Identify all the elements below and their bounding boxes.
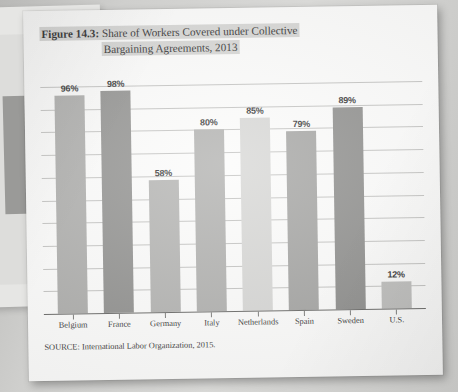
bar-group: 12% bbox=[370, 65, 420, 309]
bar-value-label: 85% bbox=[246, 106, 264, 116]
bar-value-label: 12% bbox=[387, 269, 405, 279]
background-chart-fragment bbox=[3, 96, 28, 215]
bar-group: 98% bbox=[92, 69, 142, 313]
figure-number-label: Figure 14.3: bbox=[41, 27, 99, 40]
tick-mark bbox=[73, 315, 74, 320]
tick-slot bbox=[50, 314, 96, 320]
bar-chart: 96%98%58%80%85%79%89%12% BelgiumFranceGe… bbox=[40, 65, 426, 314]
tick-slot bbox=[327, 310, 373, 316]
bar-group: 89% bbox=[324, 66, 374, 310]
x-axis-label: Sweden bbox=[327, 316, 373, 326]
bar-value-label: 79% bbox=[292, 118, 310, 128]
tick-slot bbox=[96, 313, 142, 319]
tick-slot bbox=[374, 309, 420, 315]
bar bbox=[55, 95, 88, 313]
tick-slot bbox=[189, 312, 235, 318]
x-axis-label: Netherlands bbox=[235, 317, 281, 327]
tick-mark bbox=[119, 314, 120, 319]
tick-slot bbox=[142, 313, 188, 319]
tick-mark bbox=[350, 310, 351, 315]
bar bbox=[101, 90, 134, 313]
x-axis-label: U.S. bbox=[374, 315, 420, 325]
bar-value-label: 96% bbox=[61, 84, 79, 94]
bar-series: 96%98%58%80%85%79%89%12% bbox=[40, 65, 426, 314]
tick-slot bbox=[281, 311, 327, 317]
bar-value-label: 80% bbox=[200, 118, 218, 128]
source-note: SOURCE: International Labor Organization… bbox=[44, 340, 215, 352]
page-content: Figure 14.3: Share of Workers Covered un… bbox=[23, 5, 443, 381]
tick-mark bbox=[165, 313, 166, 318]
bar-group: 96% bbox=[46, 70, 96, 314]
bar-group: 85% bbox=[231, 67, 281, 311]
bar bbox=[194, 130, 227, 312]
tick-mark bbox=[257, 312, 258, 317]
x-axis-label: Italy bbox=[189, 318, 235, 328]
x-axis-label: France bbox=[96, 319, 142, 329]
figure-title: Figure 14.3: Share of Workers Covered un… bbox=[39, 21, 421, 58]
figure-title-text-1: Share of Workers Covered under Collectiv… bbox=[102, 24, 298, 39]
tick-mark bbox=[211, 312, 212, 317]
tick-mark bbox=[304, 311, 305, 316]
bar bbox=[148, 180, 180, 312]
bar-group: 79% bbox=[277, 67, 327, 311]
bar-value-label: 58% bbox=[155, 168, 173, 178]
x-axis-label: Belgium bbox=[50, 320, 96, 330]
figure-title-text-2: Bargaining Agreements, 2013 bbox=[102, 40, 240, 56]
bar-value-label: 98% bbox=[107, 78, 125, 88]
tick-slot bbox=[235, 311, 281, 317]
book-page: Figure 14.3: Share of Workers Covered un… bbox=[23, 5, 443, 381]
bar bbox=[286, 130, 319, 310]
bar bbox=[240, 117, 273, 310]
bar-value-label: 89% bbox=[338, 95, 356, 105]
tick-mark bbox=[396, 309, 397, 314]
x-axis-label: Germany bbox=[142, 319, 188, 329]
bar-group: 80% bbox=[185, 68, 235, 312]
x-axis-label: Spain bbox=[281, 317, 327, 327]
bar bbox=[332, 107, 365, 309]
plot-area: 96%98%58%80%85%79%89%12% bbox=[40, 65, 426, 314]
bar-group: 58% bbox=[139, 69, 189, 313]
bar bbox=[381, 281, 411, 309]
